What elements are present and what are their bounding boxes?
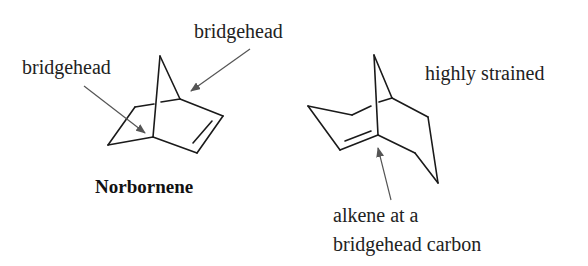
- arrow-to-bottom-bridgehead: [84, 86, 145, 133]
- label-highly-strained: highly strained: [425, 63, 544, 83]
- label-alkene-line2: bridgehead carbon: [333, 234, 481, 254]
- label-bridgehead-left: bridgehead: [22, 57, 111, 77]
- alkene-arrow: [378, 148, 391, 200]
- label-bridgehead-top: bridgehead: [194, 21, 283, 41]
- arrow-to-top-bridgehead: [191, 49, 250, 91]
- label-alkene-line1: alkene at a: [333, 205, 419, 225]
- diagram-canvas: bridgehead bridgehead Norbornene highly …: [0, 0, 588, 266]
- label-norbornene: Norbornene: [95, 177, 193, 196]
- norbornene-structure: [108, 56, 223, 153]
- bridgehead-alkene-structure: [308, 55, 438, 183]
- structures-svg: [0, 0, 588, 266]
